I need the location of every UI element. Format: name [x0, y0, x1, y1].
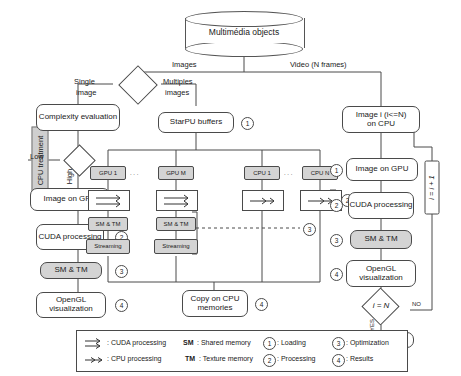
gpu-1-streaming-label: Streaming [94, 243, 121, 250]
legend-optimization-text: : Optimization [346, 339, 389, 346]
cpu-processing-arrow-icon [83, 355, 105, 365]
marker-3-right-optimize: 3 [330, 234, 343, 247]
left-sm-tm-label: SM & TM [54, 266, 87, 275]
left-opengl-node: OpenGL visualization [36, 292, 106, 318]
label-multiples-images: images [165, 88, 189, 97]
gpu-1-streaming-node: Streaming [86, 239, 130, 254]
starpu-label: StarPU buffers [170, 118, 222, 127]
complexity-label: Complexity evaluation [39, 113, 117, 122]
gpu-m-streaming-node: Streaming [154, 239, 198, 254]
legend-sm-text: : Shared memory [197, 339, 251, 346]
right-cuda-processing-node: CUDA processing [348, 192, 414, 219]
right-sm-tm-node: SM & TM [350, 230, 412, 249]
images-split-diamond [113, 67, 161, 101]
right-opengl-node: OpenGL visualization [346, 260, 416, 287]
marker-4-left-results: 4 [115, 299, 128, 312]
legend-sm-abbr: SM [183, 339, 194, 346]
image-i-sub-label: on CPU [356, 120, 407, 129]
source-cylinder: Multimédia objects [185, 10, 303, 56]
legend-panel: : CUDA processing SM : Shared memory : C… [76, 330, 408, 372]
cpu-n-label: CPU N [311, 170, 330, 177]
label-low: Low [30, 152, 44, 161]
starpu-buffers-node: StarPU buffers [158, 112, 234, 133]
legend-results-text: : Results [346, 355, 373, 362]
left-opengl-label: OpenGL visualization [37, 296, 105, 314]
legend-marker-3: 3 [332, 337, 345, 350]
right-sm-tm-label: SM & TM [364, 235, 397, 244]
gpu-m-node: GPU M [158, 166, 194, 180]
gpu-m-streaming-label: Streaming [162, 243, 189, 250]
branch-label-video: Video (N frames) [290, 60, 347, 69]
single-arrow-icon [243, 191, 283, 210]
cylinder-bottom [185, 41, 303, 57]
branch-label-images: Images [172, 60, 197, 69]
legend-marker-1: 1 [263, 337, 276, 350]
legend-tm-abbr: TM [185, 355, 195, 362]
gpu-1-label: GPU 1 [99, 170, 117, 177]
gpu-1-sm-tm-node: SM & TM [88, 217, 128, 231]
cpu-1-label: CPU 1 [253, 170, 271, 177]
right-opengl-label: OpenGL visualization [347, 265, 415, 283]
legend-processing-text: : Processing [277, 355, 316, 362]
increment-label: i = i + 1 [428, 175, 436, 200]
marker-3-left-optimize: 3 [115, 265, 128, 278]
gpu-1-kernel-box [88, 190, 130, 211]
gpu-m-kernel-box [156, 190, 198, 211]
cylinder-top [185, 11, 303, 27]
label-no: NO [412, 301, 421, 307]
right-image-on-gpu-label: Image on GPU [356, 165, 409, 174]
gpu-m-sm-tm-node: SM & TM [156, 217, 196, 231]
legend-marker-4: 4 [332, 354, 345, 367]
cuda-processing-arrow-icon [83, 337, 105, 351]
right-cuda-label: CUDA processing [349, 201, 412, 210]
cpu-ellipsis: . . . [284, 170, 292, 176]
legend-cpu-text: : CPU processing [107, 355, 161, 362]
copy-cpu-memories-node: Copy on CPU memories [182, 290, 248, 317]
increment-counter-node: i = i + 1 [425, 161, 440, 215]
gpu-ellipsis: . . . [130, 170, 138, 176]
left-sm-tm-node: SM & TM [40, 262, 102, 279]
legend-marker-2: 2 [263, 354, 276, 367]
label-multiples: Multiples [163, 77, 193, 86]
marker-1-starpu-load: 1 [241, 117, 254, 130]
label-single-image: image [76, 88, 96, 97]
complexity-evaluation-node: Complexity evaluation [36, 104, 120, 131]
legend-cuda-text: : CUDA processing [107, 339, 166, 346]
marker-1-right-load: 1 [330, 164, 343, 177]
marker-3-middle-optimize: 3 [303, 223, 316, 236]
marker-4-middle-results: 4 [255, 298, 268, 311]
marker-2-right-process: 2 [330, 199, 343, 212]
cpu-1-node: CPU 1 [244, 166, 280, 180]
label-high: High [65, 169, 74, 184]
copy-cpu-memories-label: Copy on CPU memories [183, 295, 247, 313]
gpu-m-sm-tm-label: SM & TM [164, 221, 189, 228]
legend-loading-text: : Loading [277, 339, 306, 346]
cpu-1-task-box [242, 190, 284, 211]
flowchart-canvas: Multimédia objects Images Video (N frame… [0, 0, 461, 376]
image-i-on-cpu-node: Image i (i<=N) on CPU [342, 106, 420, 133]
gpu-1-node: GPU 1 [90, 166, 126, 180]
gpu-1-sm-tm-label: SM & TM [96, 221, 121, 228]
marker-4-right-results: 4 [330, 268, 343, 281]
gpu-m-label: GPU M [166, 170, 186, 177]
double-arrow-icon [157, 191, 197, 210]
label-single: Single [74, 77, 95, 86]
legend-tm-text: : Texture memory [199, 355, 253, 362]
source-label: Multimédia objects [185, 27, 303, 37]
right-image-on-gpu-node: Image on GPU [346, 158, 418, 181]
double-arrow-icon [89, 191, 129, 210]
